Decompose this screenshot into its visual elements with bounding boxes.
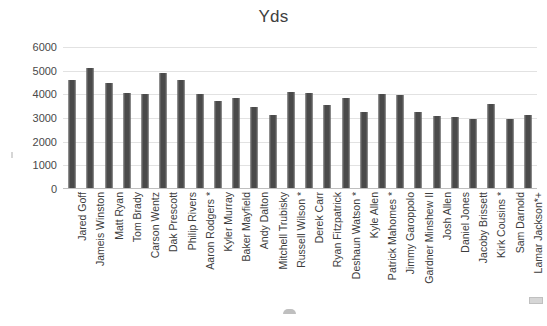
y-tick-label: 2000 (0, 136, 57, 148)
bar[interactable] (506, 119, 513, 189)
x-tick-label: Patrick Mahomes * (386, 192, 398, 280)
x-tick-label: Tom Brady (131, 192, 143, 242)
x-axis: Jared GoffJameis WinstonMatt RyanTom Bra… (63, 192, 537, 312)
y-axis-artifact (11, 152, 13, 158)
bar-slot (501, 47, 519, 189)
bar-slot (428, 47, 446, 189)
x-tick-label: Jimmy Garoppolo (404, 192, 416, 274)
bar[interactable] (287, 92, 294, 189)
bar[interactable] (415, 112, 422, 189)
x-tick-label: Carson Wentz (149, 192, 161, 258)
scrollbar-thumb[interactable] (529, 297, 543, 304)
bar[interactable] (324, 105, 331, 189)
bar-slot (373, 47, 391, 189)
legend-marker-icon (283, 309, 296, 314)
x-tick-label: Mitchell Trubisky (277, 192, 289, 270)
bar-slot (81, 47, 99, 189)
bar-slot (99, 47, 117, 189)
bar-slot (245, 47, 263, 189)
bar[interactable] (342, 98, 349, 189)
x-tick-label: Andy Dalton (258, 192, 270, 249)
bar[interactable] (123, 93, 130, 189)
bar[interactable] (306, 93, 313, 189)
bar-slot (63, 47, 81, 189)
bar-slot (172, 47, 190, 189)
bar[interactable] (214, 101, 221, 189)
x-tick-label: Gardner Minshew II (423, 192, 435, 284)
bar[interactable] (105, 83, 112, 189)
bar[interactable] (142, 94, 149, 189)
x-tick-label: Matt Ryan (113, 192, 125, 240)
x-tick-label: Jameis Winston (94, 192, 106, 266)
x-tick-label: Philip Rivers (186, 192, 198, 250)
bar[interactable] (196, 94, 203, 189)
bar-slot (336, 47, 354, 189)
x-tick-label: Daniel Jones (459, 192, 471, 253)
x-tick-label: Deshaun Watson * (350, 192, 362, 279)
x-tick-label: Jared Goff (76, 192, 88, 241)
bar-slot (409, 47, 427, 189)
bar[interactable] (524, 115, 531, 189)
x-tick-label: Kirk Cousins * (495, 192, 507, 258)
chart-title: Yds (0, 7, 547, 27)
x-axis-line (63, 188, 537, 189)
y-tick-label: 0 (0, 183, 57, 195)
bar[interactable] (269, 115, 276, 189)
bar[interactable] (451, 117, 458, 189)
bar[interactable] (178, 80, 185, 189)
y-tick-label: 3000 (0, 112, 57, 124)
x-tick-label: Josh Allen (441, 192, 453, 240)
bar-slot (446, 47, 464, 189)
bar-slot (227, 47, 245, 189)
y-tick-label: 5000 (0, 65, 57, 77)
x-tick-label: Derek Carr (313, 192, 325, 243)
bar-slot (355, 47, 373, 189)
chart-container: Yds 0100020003000400050006000 Jared Goff… (0, 0, 547, 326)
bar[interactable] (87, 68, 94, 189)
bar[interactable] (379, 94, 386, 189)
bar[interactable] (360, 112, 367, 189)
bar-slot (264, 47, 282, 189)
bar[interactable] (233, 98, 240, 189)
x-tick-label: Aaron Rodgers * (204, 192, 216, 270)
x-tick-label: Baker Mayfield (240, 192, 252, 261)
bar-slot (191, 47, 209, 189)
x-tick-label: Sam Darnold (514, 192, 526, 253)
y-tick-label: 4000 (0, 88, 57, 100)
x-tick-label: Kyle Allen (368, 192, 380, 238)
bar-slot (209, 47, 227, 189)
plot-area (63, 47, 537, 189)
x-tick-label: Kyler Murray (222, 192, 234, 252)
bar-slot (154, 47, 172, 189)
bar[interactable] (433, 116, 440, 189)
x-tick-label: Lamar Jackson*+ (532, 192, 544, 273)
bar-slot (118, 47, 136, 189)
bar[interactable] (488, 104, 495, 189)
x-tick-label: Jacoby Brissett (477, 192, 489, 263)
bar-slot (136, 47, 154, 189)
y-tick-label: 1000 (0, 159, 57, 171)
x-tick-label: Dak Prescott (167, 192, 179, 252)
bar-slot (519, 47, 537, 189)
bar-slot (464, 47, 482, 189)
bar-slot (391, 47, 409, 189)
bar[interactable] (470, 119, 477, 189)
y-tick-label: 6000 (0, 41, 57, 53)
bar[interactable] (251, 107, 258, 189)
bar-slot (318, 47, 336, 189)
bar[interactable] (397, 95, 404, 189)
x-tick-label: Russell Wilson * (295, 192, 307, 268)
bar[interactable] (160, 73, 167, 189)
bar-slot (300, 47, 318, 189)
y-axis: 0100020003000400050006000 (0, 47, 57, 189)
bar[interactable] (69, 80, 76, 189)
bar-slot (282, 47, 300, 189)
x-tick-label: Ryan Fitzpatrick (331, 192, 343, 267)
bar-slot (482, 47, 500, 189)
